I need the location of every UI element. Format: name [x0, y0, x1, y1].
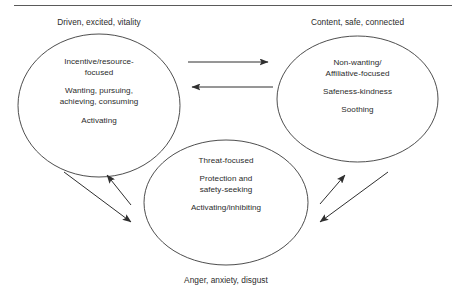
- threat-system-caption: Anger, anxiety, disgust: [144, 275, 308, 286]
- arrow-soothing-to-threat: [320, 172, 388, 222]
- diagram-page: Driven, excited, vitality Content, safe,…: [0, 0, 454, 303]
- arrow-threat-to-soothing: [320, 175, 345, 204]
- drive-system-caption: Driven, excited, vitality: [18, 17, 180, 28]
- arrow-threat-to-drive: [107, 175, 131, 205]
- soothing-system-caption: Content, safe, connected: [277, 17, 438, 28]
- arrow-drive-to-threat: [64, 172, 131, 222]
- threat-system-label: Threat-focused Protection and safety-see…: [144, 155, 308, 214]
- drive-system-label: Incentive/resource- focused Wanting, pur…: [18, 56, 180, 126]
- diagram-canvas: [0, 0, 454, 303]
- soothing-system-label: Non-wanting/ Affiliative-focused Safenes…: [277, 57, 438, 116]
